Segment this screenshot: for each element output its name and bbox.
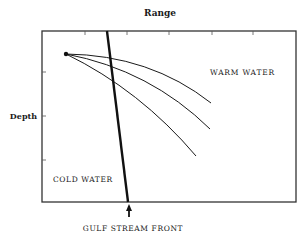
arrow-up-icon <box>126 204 132 217</box>
depth-axis-label: Depth <box>10 111 37 121</box>
gulf-stream-front-label: GULF STREAM FRONT <box>83 224 183 233</box>
cold-water-label: COLD WATER <box>53 175 113 184</box>
ray-3 <box>66 54 196 156</box>
sound-rays <box>66 54 211 156</box>
warm-water-label: WARM WATER <box>210 68 275 77</box>
source-point <box>64 52 68 56</box>
range-axis-label: Range <box>144 8 176 18</box>
gulf-stream-front-diagram: Range Depth WARM WATER <box>0 0 307 241</box>
